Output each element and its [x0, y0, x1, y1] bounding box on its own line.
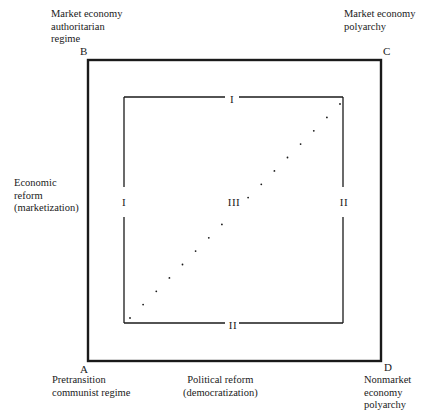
region-left-label: I: [122, 196, 126, 208]
diagonal-dot: [182, 264, 184, 266]
diagonal-dot: [129, 317, 131, 319]
region-center-label: III: [228, 196, 241, 208]
diagonal-dotted-path: [129, 103, 341, 319]
diagonal-dot: [142, 304, 144, 306]
diagonal-dot: [274, 170, 276, 172]
diagonal-dot: [326, 117, 328, 119]
horizontal-axis-label: Political reform (democratization): [183, 374, 258, 399]
diagonal-dot: [300, 143, 302, 145]
region-top-label: I: [230, 93, 234, 105]
corner-d-label: Nonmarket economy polyarchy: [364, 374, 411, 412]
diagonal-dot: [169, 277, 171, 279]
diagonal-dot: [287, 157, 289, 159]
corner-d-letter: D: [384, 361, 392, 373]
corner-b-label: Market economy authoritarian regime: [51, 8, 122, 46]
corner-b-letter: B: [80, 45, 87, 57]
vertical-axis-label: Economic reform (marketization): [14, 177, 79, 215]
diagonal-dot: [313, 130, 315, 132]
diagonal-dot: [155, 290, 157, 292]
corner-c-letter: C: [383, 45, 390, 57]
region-bottom-label: II: [229, 319, 237, 331]
diagonal-dot: [260, 183, 262, 185]
outer-square: [88, 60, 381, 361]
corner-a-label: Pretransition communist regime: [52, 374, 130, 399]
diagonal-dot: [221, 224, 223, 226]
diagonal-dot: [208, 237, 210, 239]
diagonal-dot: [247, 197, 249, 199]
diagonal-dot: [339, 103, 341, 105]
corner-c-label: Market economy polyarchy: [344, 8, 415, 33]
inner-square: [124, 97, 343, 323]
region-right-label: II: [340, 196, 348, 208]
diagonal-dot: [195, 250, 197, 252]
